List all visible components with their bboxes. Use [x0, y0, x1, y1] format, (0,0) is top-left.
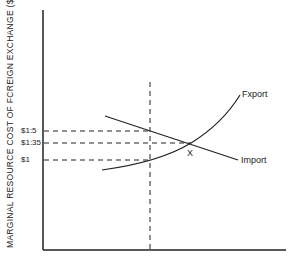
import-label: Import — [241, 155, 267, 165]
export-label: Fxport — [242, 89, 268, 99]
intersection-label: X — [187, 148, 193, 158]
y-axis-label: MARGINAL RESOURCE COST OF FCREIGN EXCHAN… — [5, 0, 15, 248]
tick-low: $1 — [21, 155, 30, 164]
tick-mid: $1:35 — [21, 138, 41, 147]
export-curve — [102, 95, 240, 170]
tick-high: $1:5 — [21, 126, 37, 135]
chart-canvas — [0, 0, 291, 258]
